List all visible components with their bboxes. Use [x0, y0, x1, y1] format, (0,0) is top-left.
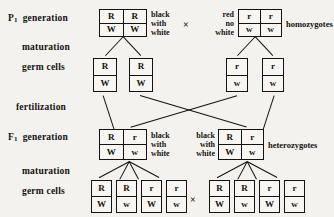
allele-cell: W	[130, 76, 152, 92]
allele-cell: r	[261, 10, 282, 23]
p1-parent-right-top-row: r r	[239, 10, 281, 24]
germ-cell-top-row: R	[94, 59, 116, 76]
germ-cell-top-row: R	[92, 181, 111, 197]
germ-cell-bottom-row: w	[235, 197, 254, 212]
germ-cell-bottom-row: W	[92, 197, 111, 212]
germ-cell-bottom-row: W	[260, 197, 279, 212]
germ-cell-top-row: r	[263, 59, 283, 76]
allele-cell: w	[261, 24, 282, 37]
f1-offspring-right-genotype-box: R r W w	[218, 129, 264, 160]
allele-cell: W	[92, 197, 111, 212]
germ-cell-bottom-row: w	[227, 76, 247, 92]
germ-cell-top-row: R	[117, 181, 136, 197]
f1-germ-cell-left-2: R w	[116, 180, 137, 213]
f1-offspring-left-genotype-box: R r W w	[99, 129, 147, 160]
p1-parent-left-genotype-box: R R W W	[99, 9, 147, 37]
allele-cell: R	[124, 10, 147, 23]
allele-cell: W	[124, 24, 147, 37]
germ-cell-bottom-row: w	[263, 76, 283, 92]
label-fertilization: fertilization	[16, 102, 66, 112]
fertilization-line-cross-left-to-right	[140, 95, 247, 128]
f1-offspring-right-top-row: R r	[219, 130, 263, 145]
p1-right-zygosity-label: homozygotes	[286, 19, 333, 29]
phenotype-line: white	[151, 28, 170, 37]
allele-cell: R	[235, 181, 254, 196]
allele-cell: R	[219, 130, 242, 144]
allele-cell: R	[92, 181, 111, 196]
label-germ-cells-p1: germ cells	[22, 62, 65, 72]
f1-germ-cell-right-2: R w	[234, 180, 255, 213]
allele-cell: r	[142, 181, 161, 196]
p1-germ-cell-right-b: r w	[262, 58, 284, 92]
f1-germ-cell-right-1: R W	[209, 180, 230, 213]
allele-cell: w	[242, 145, 264, 159]
phenotype-line: black	[151, 131, 170, 140]
phenotype-line: with	[151, 140, 170, 149]
germ-cell-top-row: R	[210, 181, 229, 197]
p1-germ-cell-left-a: R W	[93, 58, 117, 92]
allele-cell: w	[167, 197, 186, 212]
f1-subscript: 1	[14, 135, 18, 143]
allele-cell: r	[124, 130, 147, 144]
allele-cell: r	[285, 181, 304, 196]
allele-cell: w	[227, 76, 247, 92]
p1-parent-right-genotype-box: r r w w	[238, 9, 282, 37]
allele-cell: w	[239, 24, 261, 37]
p1-generation-word: generation	[23, 13, 68, 23]
allele-cell: W	[219, 145, 242, 159]
allele-cell: W	[94, 76, 116, 92]
germ-cell-top-row: r	[285, 181, 304, 197]
f1-left-phenotype: black with white	[151, 131, 170, 159]
allele-cell: r	[239, 10, 261, 23]
allele-cell: W	[100, 24, 124, 37]
germ-cell-top-row: r	[167, 181, 186, 197]
germ-cell-top-row: r	[142, 181, 161, 197]
allele-cell: w	[117, 197, 136, 212]
f1-offspring-right-bottom-row: W w	[219, 145, 263, 159]
label-f1-generation: F1 generation	[8, 132, 68, 142]
phenotype-line: white	[151, 149, 170, 158]
p1-parent-left-bottom-row: W W	[100, 24, 146, 37]
f1-right-phenotype: black with white	[178, 131, 215, 159]
allele-cell: r	[227, 59, 247, 75]
germ-cell-bottom-row: W	[142, 197, 161, 212]
f1-germ-cell-right-4: r w	[284, 180, 305, 213]
phenotype-line: black	[151, 10, 170, 19]
phenotype-line: no	[198, 19, 234, 28]
germ-cell-bottom-row: W	[210, 197, 229, 212]
germ-cell-bottom-row: W	[130, 76, 152, 92]
germ-cell-bottom-row: w	[117, 197, 136, 212]
phenotype-line: with	[151, 19, 170, 28]
allele-cell: w	[124, 145, 147, 159]
connector-p1-right-a	[237, 36, 256, 56]
allele-cell: W	[142, 197, 161, 212]
p1-germ-cell-left-b: R W	[129, 58, 153, 92]
f1-germ-cell-left-1: R W	[91, 180, 112, 213]
allele-cell: R	[210, 181, 229, 196]
phenotype-line: white	[198, 28, 234, 37]
germ-cell-top-row: R	[130, 59, 152, 76]
germ-cell-top-row: R	[235, 181, 254, 197]
allele-cell: r	[167, 181, 186, 196]
connector-p1-left-a	[105, 36, 124, 56]
germ-cell-top-row: r	[227, 59, 247, 76]
label-p1-generation: P1 generation	[8, 13, 68, 23]
allele-cell: r	[263, 59, 283, 75]
germ-cell-bottom-row: W	[94, 76, 116, 92]
p1-germ-cell-right-a: r w	[226, 58, 248, 92]
germ-cell-bottom-row: w	[167, 197, 186, 212]
f1-germ-cell-left-4: r w	[166, 180, 187, 213]
phenotype-line: red	[198, 10, 234, 19]
allele-cell: w	[263, 76, 283, 92]
allele-cell: R	[130, 59, 152, 75]
p1-subscript: 1	[14, 16, 18, 24]
germ-cell-bottom-row: w	[285, 197, 304, 212]
cross-symbol-p1: ×	[183, 20, 189, 30]
f1-offspring-left-top-row: R r	[100, 130, 146, 145]
allele-cell: R	[100, 10, 124, 23]
p1-parent-right-bottom-row: w w	[239, 24, 281, 37]
phenotype-line: with	[178, 140, 215, 149]
p1-right-phenotype: red no white	[198, 10, 234, 38]
allele-cell: r	[260, 181, 279, 196]
genetics-inheritance-diagram: P1 generation maturation germ cells fert…	[0, 0, 334, 217]
